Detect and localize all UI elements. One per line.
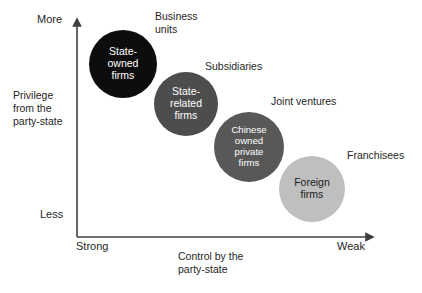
bubble-foreign-firms[interactable]: Foreign firms	[279, 156, 345, 222]
diagram-canvas: More Less Privilege from the party-state…	[0, 0, 422, 293]
y-axis-high-label: More	[37, 13, 62, 27]
bubble-state-owned-firms[interactable]: State- owned firms	[89, 30, 157, 98]
y-axis-low-label: Less	[40, 208, 63, 222]
bubble-state-related-firms[interactable]: State- related firms	[154, 72, 218, 136]
annotation-business-units: Business units	[155, 10, 198, 36]
x-axis-high-label: Weak	[337, 240, 365, 254]
annotation-franchisees: Franchisees	[347, 149, 404, 162]
bubble-chinese-owned-private-firms[interactable]: Chinese owned private firms	[214, 112, 284, 182]
y-axis-caption: Privilege from the party-state	[13, 89, 63, 128]
annotation-joint-ventures: Joint ventures	[271, 95, 336, 108]
x-axis-caption: Control by the party-state	[178, 250, 243, 276]
x-axis-low-label: Strong	[76, 240, 108, 254]
annotation-subsidiaries: Subsidiaries	[205, 60, 262, 73]
